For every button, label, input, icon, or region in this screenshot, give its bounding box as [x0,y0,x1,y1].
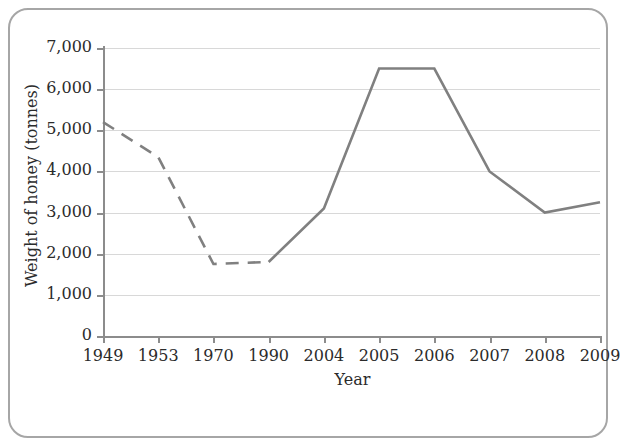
x-axis-title: Year [103,370,602,389]
series-segment-dashed [103,122,269,264]
series-segment-solid [269,69,600,262]
